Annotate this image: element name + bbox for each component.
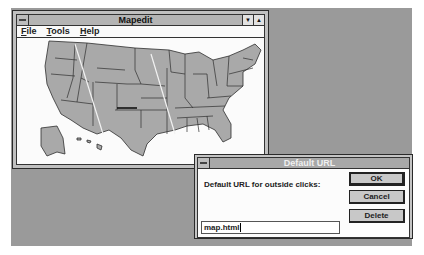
- us-map-image[interactable]: [17, 38, 265, 164]
- dialog-body: Default URL for outside clicks: map.html…: [197, 169, 410, 238]
- map-canvas[interactable]: [16, 38, 265, 165]
- dialog-titlebar[interactable]: Default URL: [197, 157, 410, 169]
- ok-button[interactable]: OK: [349, 172, 405, 186]
- system-menu-icon[interactable]: [17, 15, 29, 25]
- mapedit-window: Mapedit ▼ ▲ File Tools Help: [12, 10, 269, 169]
- minimize-button[interactable]: ▼: [242, 15, 253, 25]
- url-prompt-label: Default URL for outside clicks:: [204, 180, 320, 189]
- cancel-button[interactable]: Cancel: [349, 190, 405, 204]
- delete-button[interactable]: Delete: [349, 209, 405, 223]
- dialog-title: Default URL: [210, 158, 409, 168]
- default-url-input[interactable]: map.html: [201, 221, 340, 234]
- text-caret: [240, 223, 241, 232]
- mapedit-titlebar[interactable]: Mapedit ▼ ▲: [16, 14, 265, 26]
- menu-help[interactable]: Help: [80, 26, 100, 37]
- system-menu-icon[interactable]: [198, 158, 210, 168]
- maximize-button[interactable]: ▲: [253, 15, 264, 25]
- menu-tools[interactable]: Tools: [47, 26, 70, 37]
- menu-file[interactable]: File: [21, 26, 37, 37]
- default-url-dialog: Default URL Default URL for outside clic…: [194, 154, 413, 239]
- window-title: Mapedit: [29, 15, 242, 25]
- menu-bar: File Tools Help: [16, 26, 265, 38]
